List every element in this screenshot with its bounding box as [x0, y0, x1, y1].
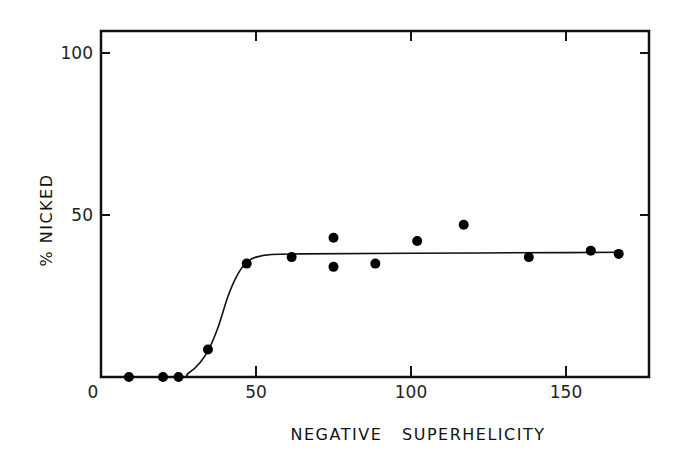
x-tick-label: 50 [245, 382, 267, 402]
y-tick-label: 100 [61, 43, 93, 63]
data-point [329, 233, 339, 243]
data-point [370, 259, 380, 269]
data-points [124, 220, 624, 382]
fitted-curve [101, 252, 622, 377]
data-point [158, 372, 168, 382]
data-point [459, 220, 469, 230]
fit-line [101, 252, 622, 377]
x-tick-label: 0 [88, 382, 99, 402]
plot-frame [101, 31, 649, 377]
data-point [287, 252, 297, 262]
data-point [412, 236, 422, 246]
x-tick-label: 150 [550, 382, 582, 402]
data-point [242, 259, 252, 269]
data-point [586, 246, 596, 256]
data-point [329, 262, 339, 272]
chart: 05010015050100 NEGATIVE SUPERHELICITY % … [0, 0, 686, 455]
tick-labels: 05010015050100 [61, 43, 583, 402]
data-point [203, 344, 213, 354]
axis-ticks [101, 31, 649, 377]
x-axis-title: NEGATIVE SUPERHELICITY [291, 425, 546, 444]
data-point [174, 372, 184, 382]
y-tick-label: 50 [71, 205, 93, 225]
data-point [124, 372, 134, 382]
data-point [524, 252, 534, 262]
data-point [614, 249, 624, 259]
x-tick-label: 100 [395, 382, 427, 402]
y-axis-title: % NICKED [37, 173, 56, 266]
